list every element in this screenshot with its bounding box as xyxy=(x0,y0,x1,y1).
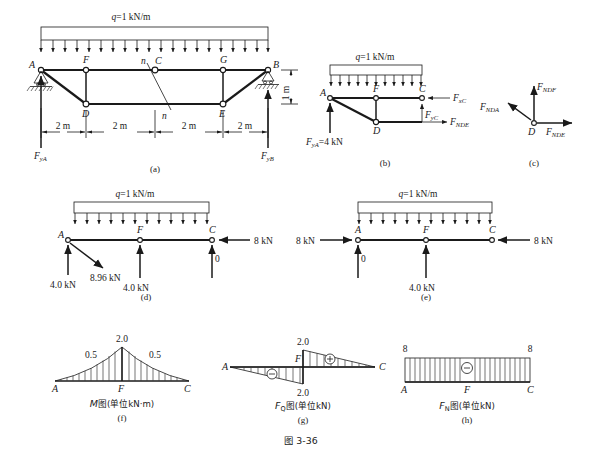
panel-d-joint-F: F xyxy=(136,224,144,235)
panel-g-joint-A: A xyxy=(221,361,229,372)
panel-d-joint-labels: A F C xyxy=(57,224,216,240)
panel-a-reactions: FyA FyB xyxy=(33,76,274,162)
panel-tag-h: (h) xyxy=(462,415,473,425)
panel-b-joint-A: A xyxy=(319,87,327,98)
panel-d-distributed-load xyxy=(74,202,209,224)
panel-a: q=1 kN/m xyxy=(27,12,298,174)
panel-b-joint-F: F xyxy=(372,83,380,94)
panel-h-axial-diagram: 8 8 A F C FN图(单位kN) (h) xyxy=(400,344,534,425)
panel-f-joint-C: C xyxy=(184,383,191,394)
roller-support-icon xyxy=(255,71,279,89)
panel-e-beam xyxy=(356,238,495,243)
panel-c-force-FNDE: FNDE xyxy=(545,127,565,138)
panel-b-reaction-FyA: FyA=4 kN xyxy=(305,137,343,148)
joint-label-C: C xyxy=(155,55,162,66)
panel-a-truss xyxy=(41,70,268,104)
reaction-label-FyB: FyB xyxy=(260,151,274,162)
panel-f-peak-value: 2.0 xyxy=(116,334,128,344)
figure-container: q=1 kN/m xyxy=(0,0,603,464)
panel-g-joint-F: F xyxy=(294,353,302,364)
panel-e-force-left: 8 kN xyxy=(296,236,315,246)
panel-b: q=1 kN/m xyxy=(305,52,469,168)
panel-g-title: FQ图(单位kN) xyxy=(275,400,331,413)
span-dim-3: 2 m xyxy=(182,121,197,131)
panel-f-joint-F: F xyxy=(117,383,125,394)
panel-h-left-value: 8 xyxy=(403,344,408,354)
panel-e-joint-labels: A F C xyxy=(354,224,496,235)
panel-h-joint-A: A xyxy=(400,384,408,395)
panel-g-sign-positive xyxy=(325,354,335,364)
panel-e-distributed-load xyxy=(358,202,492,224)
panel-d-force-A-up: 4.0 kN xyxy=(50,280,76,290)
span-dim-1: 2 m xyxy=(56,121,71,131)
height-dim-label: 1 m xyxy=(281,85,291,100)
panel-e-force-right: 8 kN xyxy=(534,236,553,246)
panel-a-joints xyxy=(38,67,270,107)
panel-f-right-value: 0.5 xyxy=(149,350,161,360)
panel-e-force-A-up: 0 xyxy=(361,254,366,264)
joint-label-G: G xyxy=(220,54,227,65)
panel-e: q=1 kN/m xyxy=(296,189,553,302)
panel-h-joint-C: C xyxy=(527,384,534,395)
panel-e-forces: 8 kN 8 kN 0 4.0 kN xyxy=(296,236,553,293)
panel-b-joint-C: C xyxy=(419,83,426,94)
span-dim-4: 2 m xyxy=(238,121,253,131)
panel-b-forces: FyA=4 kN FxC FyC FNDE xyxy=(305,93,469,148)
panel-a-height-dimension: 1 m xyxy=(281,70,298,104)
panel-d-load-label: q=1 kN/m xyxy=(116,189,155,199)
panel-d-force-right: 8 kN xyxy=(254,236,273,246)
panel-d: q=1 kN/m xyxy=(50,189,273,302)
figure-caption: 图 3-36 xyxy=(284,435,317,446)
panel-b-force-FNDE: FNDE xyxy=(449,117,469,128)
panel-f-title: M图(单位kN·m) xyxy=(90,398,154,409)
panel-d-force-A-diag: 8.96 kN xyxy=(90,273,121,283)
joint-label-E: E xyxy=(218,108,225,119)
panel-d-forces: 8 kN 4.0 kN 8.96 kN 4.0 kN 0 xyxy=(50,236,273,293)
panel-h-right-value: 8 xyxy=(528,344,533,354)
panel-c: FNDA FNDF FNDE D (c) xyxy=(479,82,572,168)
panel-h-sign-negative xyxy=(462,363,473,374)
section-mark-n-bottom: n xyxy=(162,111,167,121)
panel-d-joint-C: C xyxy=(209,224,216,235)
pin-support-icon xyxy=(27,71,53,91)
reaction-label-FyA: FyA xyxy=(33,151,48,162)
section-mark-n-top: n xyxy=(141,56,146,66)
panel-tag-g: (g) xyxy=(298,415,309,425)
panel-g-joint-C: C xyxy=(379,361,386,372)
panel-c-force-FNDA: FNDA xyxy=(479,102,500,113)
panel-b-load-label: q=1 kN/m xyxy=(356,52,395,62)
joint-label-F: F xyxy=(82,54,90,65)
panel-e-joint-A: A xyxy=(354,224,362,235)
panel-tag-d: (d) xyxy=(141,292,152,302)
panel-b-joint-labels: A F C D xyxy=(319,83,426,136)
joint-label-D: D xyxy=(81,108,90,119)
panel-h-joint-F: F xyxy=(463,384,471,395)
panel-g-top-value: 2.0 xyxy=(297,337,309,347)
panel-h-title: FN图(单位kN) xyxy=(439,400,495,413)
panel-f-moment-diagram: 2.0 0.5 0.5 A F C M图(单位kN·m) (f) xyxy=(51,334,191,423)
panel-d-force-C-up: 0 xyxy=(215,254,220,264)
panel-b-force-FxC: FxC xyxy=(452,93,467,104)
panel-a-load-label: q=1 kN/m xyxy=(112,12,151,22)
panel-a-joint-labels: A F C G B D E xyxy=(28,54,279,119)
panel-g-bottom-value: 2.0 xyxy=(297,388,309,398)
panel-a-distributed-load xyxy=(41,27,268,52)
panel-g-shear-diagram: 2.0 2.0 A F C FQ图(单位kN) (g) xyxy=(221,337,386,425)
panel-a-span-dimensions: 2 m 2 m 2 m 2 m xyxy=(41,108,268,138)
panel-d-joint-A: A xyxy=(57,229,65,240)
panel-b-joint-D: D xyxy=(372,125,381,136)
joint-label-A: A xyxy=(28,59,36,70)
panel-tag-f: (f) xyxy=(118,413,127,423)
panel-c-joint-D: D xyxy=(527,126,536,137)
panel-tag-e: (e) xyxy=(421,292,431,302)
panel-d-beam xyxy=(66,238,215,243)
span-dim-2: 2 m xyxy=(113,121,128,131)
panel-tag-a: (a) xyxy=(150,164,160,174)
panel-e-load-label: q=1 kN/m xyxy=(399,189,438,199)
joint-label-B: B xyxy=(273,59,279,70)
panel-b-truss xyxy=(328,96,425,125)
panel-f-joint-A: A xyxy=(51,383,59,394)
svg-text:q=1 kN/m: q=1 kN/m xyxy=(112,12,151,22)
panel-tag-b: (b) xyxy=(380,158,391,168)
panel-e-joint-F: F xyxy=(422,224,430,235)
